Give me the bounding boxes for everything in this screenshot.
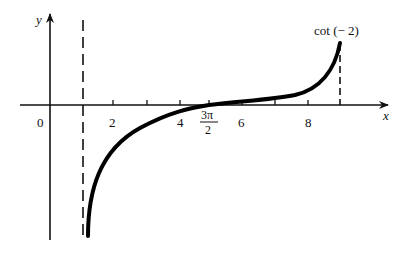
tick-label-3pi-over-2-denominator: 2: [205, 123, 211, 137]
tick-label-6: 6: [238, 115, 245, 130]
endpoint-label: cot (− 2): [314, 23, 359, 38]
x-axis-label: x: [382, 108, 389, 123]
y-axis-label: y: [34, 12, 42, 27]
tick-label-3pi-over-2-numerator: 3π: [201, 108, 213, 122]
chart-canvas: y x 0 2 4 6 8 3π 2 cot (− 2): [0, 0, 409, 253]
tick-label-4: 4: [177, 115, 184, 130]
tick-label-2: 2: [109, 115, 116, 130]
tick-label-8: 8: [305, 115, 312, 130]
function-curve: [88, 43, 340, 236]
origin-label: 0: [37, 115, 44, 130]
